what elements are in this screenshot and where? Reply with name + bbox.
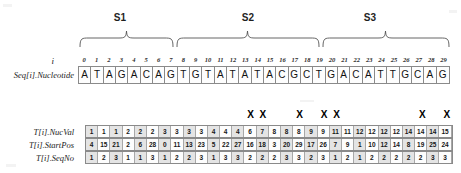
- nucleotide-cell: T: [91, 67, 103, 83]
- index-tick: 13: [239, 55, 251, 65]
- table-row-nucval: 1112223333444678889911111212121214141415: [85, 125, 453, 138]
- nucleotide-cell: C: [141, 67, 153, 83]
- index-tick: 0: [78, 55, 90, 65]
- nucleotide-cell: C: [276, 67, 288, 83]
- scan-speckle: [300, 100, 314, 102]
- table-cell: 3: [184, 126, 196, 137]
- table-cell: 3: [147, 152, 159, 163]
- table-cell: 12: [379, 126, 391, 137]
- index-tick: 11: [214, 55, 226, 65]
- nucleotide-cell: A: [153, 67, 165, 83]
- scan-speckle: [6, 164, 16, 167]
- table-cell: 20: [281, 139, 293, 150]
- table-cell: 1: [86, 152, 98, 163]
- table-cell: 1: [135, 152, 147, 163]
- index-tick: 12: [227, 55, 239, 65]
- table-cell: 1: [354, 152, 366, 163]
- table-cell: 23: [196, 139, 208, 150]
- column-marker-x: X: [330, 109, 342, 120]
- table-cell: 9: [305, 126, 317, 137]
- table-row-startpos: 4152126280111323522271618320291726791101…: [85, 138, 453, 151]
- table-cell: 27: [232, 139, 244, 150]
- nucleotide-cell: C: [412, 67, 424, 83]
- segment-brace-s1: [79, 30, 174, 48]
- table-cell: 2: [171, 152, 183, 163]
- segment-brace-s3: [322, 30, 450, 48]
- figure-canvas: S1 S2 S3 i 01234567891011121314151617181…: [0, 0, 461, 173]
- table-cell: 19: [415, 139, 427, 150]
- table-cell: 24: [439, 139, 451, 150]
- column-marker-x: X: [441, 109, 453, 120]
- table-cell: 6: [135, 139, 147, 150]
- nucleotide-cell: G: [165, 67, 177, 83]
- table-cell: 7: [257, 126, 269, 137]
- table-row-seqno: 123113122313322233231212222233: [85, 151, 453, 164]
- table-cell: 12: [391, 126, 403, 137]
- marker-layer: XXXXXXX: [78, 109, 450, 121]
- table-cell: 14: [427, 126, 439, 137]
- index-tick: 2: [103, 55, 115, 65]
- nucleotide-cell: A: [79, 67, 91, 83]
- index-tick: 26: [400, 55, 412, 65]
- table-cell: 3: [159, 126, 171, 137]
- nucleotide-cell: A: [239, 67, 251, 83]
- table-cell: 3: [439, 152, 451, 163]
- table-cell: 3: [318, 152, 330, 163]
- index-tick-row: 0123456789101112131415161718192021222324…: [78, 55, 450, 65]
- index-tick: 21: [338, 55, 350, 65]
- nucleotide-cell: T: [202, 67, 214, 83]
- table-cell: 4: [208, 126, 220, 137]
- index-tick: 22: [351, 55, 363, 65]
- table-cell: 3: [293, 152, 305, 163]
- index-tick: 8: [177, 55, 189, 65]
- nucleotide-cell: C: [301, 67, 313, 83]
- table-cell: 2: [184, 152, 196, 163]
- table-cell: 2: [366, 152, 378, 163]
- table-cell: 4: [220, 126, 232, 137]
- table-cell: 11: [342, 126, 354, 137]
- index-tick: 4: [128, 55, 140, 65]
- table-cell: 8: [403, 139, 415, 150]
- table-cell: 22: [220, 139, 232, 150]
- table-cell: 2: [98, 152, 110, 163]
- table-cell: 12: [379, 139, 391, 150]
- nucleotide-row: ATAGACAGTGTATATACGCTGACATTGCAG: [78, 66, 450, 84]
- index-tick: 14: [251, 55, 263, 65]
- segment-label-s3: S3: [340, 12, 400, 23]
- nucleotide-cell: A: [338, 67, 350, 83]
- table-cell: 2: [342, 152, 354, 163]
- nucleotide-cell: T: [375, 67, 387, 83]
- table-cell: 2: [257, 152, 269, 163]
- table-cell: 5: [208, 139, 220, 150]
- table-cell: 2: [305, 152, 317, 163]
- table-cell: 4: [232, 126, 244, 137]
- table-cell: 14: [403, 126, 415, 137]
- table-cell: 28: [147, 139, 159, 150]
- index-tick: 23: [363, 55, 375, 65]
- column-marker-x: X: [318, 109, 330, 120]
- nucleotide-cell: A: [424, 67, 436, 83]
- table-cell: 1: [159, 152, 171, 163]
- column-marker-x: X: [416, 109, 428, 120]
- table-cell: 8: [269, 126, 281, 137]
- table-cell: 13: [184, 139, 196, 150]
- table-cell: 2: [244, 152, 256, 163]
- table-cell: 12: [354, 126, 366, 137]
- nucleotide-cell: A: [104, 67, 116, 83]
- table-cell: 2: [415, 152, 427, 163]
- nucleotide-cell: T: [227, 67, 239, 83]
- table-cell: 1: [330, 152, 342, 163]
- index-tick: 7: [165, 55, 177, 65]
- table-cell: 18: [257, 139, 269, 150]
- table-cell: 26: [318, 139, 330, 150]
- table-cell: 4: [86, 139, 98, 150]
- index-tick: 15: [264, 55, 276, 65]
- table-cell: 29: [293, 139, 305, 150]
- table-cell: 2: [379, 152, 391, 163]
- scan-speckle: [3, 4, 12, 7]
- nucleotide-cell: G: [326, 67, 338, 83]
- table-cell: 2: [123, 126, 135, 137]
- column-marker-x: X: [257, 109, 269, 120]
- table-cell: 2: [403, 152, 415, 163]
- index-tick: 25: [388, 55, 400, 65]
